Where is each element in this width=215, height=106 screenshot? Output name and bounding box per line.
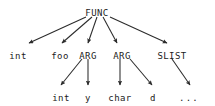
- node-arg2-type: char: [108, 93, 131, 103]
- node-arg2-name: d: [150, 93, 156, 103]
- node-foo-name: foo: [51, 51, 68, 61]
- node-func-root: FUNC: [85, 8, 108, 18]
- node-int-type: int: [9, 51, 26, 61]
- edge-func-to-slist: [110, 17, 167, 43]
- parse-tree-diagram: FUNC int foo ARG ARG SLIST int y char d …: [0, 0, 215, 106]
- node-arg-1: ARG: [79, 51, 96, 61]
- node-slist: SLIST: [157, 51, 186, 61]
- node-arg1-name: y: [85, 93, 91, 103]
- edge-arg2-to-d: [130, 59, 152, 85]
- node-arg1-type: int: [52, 93, 69, 103]
- node-arg-2: ARG: [113, 51, 130, 61]
- node-slist-ellipsis: ...: [179, 93, 199, 103]
- edge-arg1-to-int: [61, 59, 82, 85]
- edge-func-to-arg1: [88, 17, 97, 43]
- edge-slist-to-dots: [172, 59, 190, 85]
- edge-func-to-arg2: [103, 17, 117, 43]
